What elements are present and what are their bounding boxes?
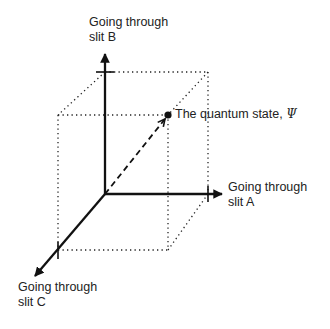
state-point [164, 111, 171, 118]
axis-label-a-line2: slit A [228, 195, 307, 210]
axis-label-slit-b: Going through slit B [89, 15, 168, 45]
axis-label-c-line2: slit C [18, 295, 97, 310]
axes [35, 54, 222, 276]
tick-marks [58, 72, 208, 259]
axis-label-b-line2: slit B [89, 30, 168, 45]
axis-label-a-line1: Going through [228, 180, 307, 195]
axis-label-b-line1: Going through [89, 15, 168, 30]
axis-label-c-line1: Going through [18, 280, 97, 295]
axis-label-slit-a: Going through slit A [228, 180, 307, 210]
psi-symbol: Ψ [286, 107, 297, 121]
quantum-state-label: The quantum state, Ψ [175, 107, 297, 122]
axis-label-slit-c: Going through slit C [18, 280, 97, 310]
state-vector [105, 119, 165, 194]
quantum-state-text: The quantum state, [175, 107, 286, 121]
axis-c [35, 194, 105, 276]
